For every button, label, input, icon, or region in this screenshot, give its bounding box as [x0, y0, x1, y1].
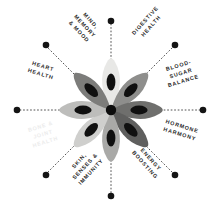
spoke-dot-bottom[interactable] — [108, 193, 115, 200]
spoke-dot-left[interactable] — [14, 107, 21, 114]
petal-seed-left — [74, 106, 91, 115]
flower-hub — [106, 105, 116, 115]
spoke-dot-bottom-left[interactable] — [43, 172, 50, 179]
spoke-dot-top[interactable] — [108, 18, 115, 25]
spoke-dot-top-left[interactable] — [43, 42, 50, 49]
wellness-benefit-wheel: MIND, MEMORY & MOOD DIGESTIVE HEALTH BLO… — [0, 0, 222, 214]
flower-petals — [59, 58, 163, 162]
wheel-graphic — [0, 0, 222, 214]
spoke-dot-top-right[interactable] — [172, 42, 179, 49]
petal-seed-up — [107, 73, 116, 90]
spoke-dot-bottom-right[interactable] — [172, 172, 179, 179]
petal-seed-down — [107, 129, 116, 146]
petal-seed-right — [130, 106, 147, 115]
spoke-dot-right[interactable] — [200, 107, 207, 114]
